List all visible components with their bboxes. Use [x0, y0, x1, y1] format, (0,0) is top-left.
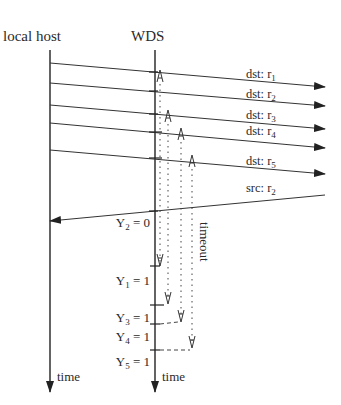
y2-label: Y2 = 0	[90, 216, 150, 232]
msg-label-src-r2: src: r2	[246, 182, 276, 197]
msg-label-r2: dst: r2	[246, 88, 276, 103]
timeout-label: timeout	[196, 222, 212, 262]
y4-label: Y4 = 1	[90, 330, 150, 346]
msg-label-r5: dst: r5	[246, 155, 276, 170]
msg-label-r4: dst: r4	[246, 125, 276, 140]
msg-r3	[50, 105, 325, 129]
y5-label: Y5 = 1	[90, 355, 150, 371]
msg-r5	[50, 150, 325, 174]
y3-label: Y3 = 1	[90, 311, 150, 327]
timing-diagram	[0, 0, 341, 405]
lane-label-local-host: local host	[3, 29, 61, 44]
time-label-local-host: time	[57, 370, 80, 383]
time-label-wds: time	[162, 370, 185, 383]
msg-r1	[50, 63, 325, 87]
lane-label-wds: WDS	[131, 29, 164, 44]
msg-label-r1: dst: r1	[246, 68, 276, 83]
y1-label: Y1 = 1	[90, 274, 150, 290]
msg-r4	[50, 123, 325, 148]
msg-label-r3: dst: r3	[246, 109, 276, 124]
msg-r2	[50, 83, 325, 106]
